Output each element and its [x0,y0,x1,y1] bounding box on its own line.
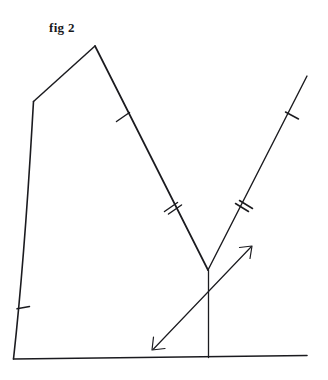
segment-descending-edge [95,46,208,270]
figure-canvas-root: fig 2 [0,0,328,380]
segment-baseline [14,356,308,360]
geometry-sketch-svg [0,0,328,380]
segment-top-left-edge [34,46,96,102]
segment-left-edge [14,102,34,360]
segment-right-ray [208,76,307,270]
double-headed-arrow-shaft [154,247,252,349]
tick-descending-upper [117,113,130,122]
figure-caption-label: fig 2 [49,20,75,36]
